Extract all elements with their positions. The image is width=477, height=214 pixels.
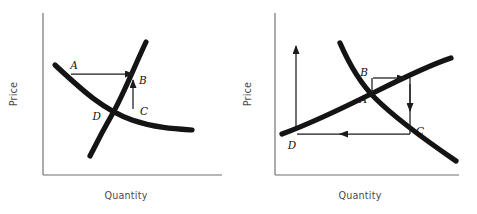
- right-diagram: A B C D Price Quantity: [237, 0, 477, 214]
- left-label-c: C: [140, 105, 148, 117]
- left-label-d: D: [92, 110, 102, 122]
- right-label-a: A: [358, 93, 367, 105]
- supply-demand-figure: A B C D Price Quantity: [0, 0, 477, 214]
- right-x-axis-title: Quantity: [338, 190, 381, 201]
- left-y-axis-title: Price: [8, 82, 19, 106]
- left-x-axis-title: Quantity: [104, 190, 147, 201]
- left-label-b: B: [138, 74, 147, 86]
- left-label-a: A: [69, 59, 78, 71]
- right-label-b: B: [359, 66, 368, 78]
- left-diagram: A B C D Price Quantity: [0, 0, 237, 214]
- right-y-axis-title: Price: [242, 82, 253, 106]
- right-label-c: C: [416, 125, 424, 137]
- right-label-d: D: [287, 139, 297, 151]
